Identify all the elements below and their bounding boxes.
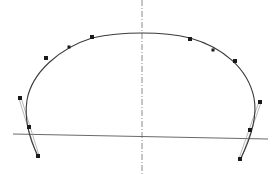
control-point-L4 [44, 56, 48, 60]
control-point-L2 [27, 125, 31, 129]
control-point-R4 [233, 59, 237, 63]
arch-diagram [0, 0, 279, 174]
control-point-R2 [248, 128, 252, 132]
control-points [18, 35, 262, 161]
control-point-L6 [90, 35, 94, 39]
control-point-L3 [18, 96, 22, 100]
fitted-curve [26, 33, 255, 160]
control-point-R1 [238, 157, 242, 161]
tangent-lines [19, 98, 261, 159]
baseline [13, 134, 268, 139]
control-point-L1 [36, 154, 40, 158]
control-point-R5 [212, 49, 215, 52]
control-point-R6 [188, 37, 192, 41]
control-point-L5 [68, 46, 71, 49]
control-point-R3 [258, 100, 262, 104]
